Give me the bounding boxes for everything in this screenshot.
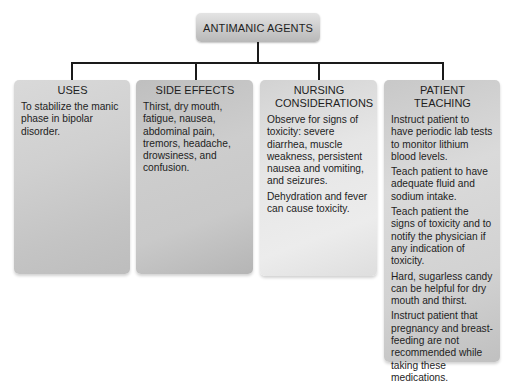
box-patient-teaching: PATIENT TEACHING Instruct patient to hav… [384, 80, 500, 362]
box-text: Observe for signs of toxicity: severe di… [267, 114, 371, 188]
box-heading: PATIENT TEACHING [391, 84, 494, 110]
connector-patient-teaching [442, 62, 444, 80]
root-node-label: ANTIMANIC AGENTS [203, 22, 313, 34]
connector-nursing-considerations [318, 62, 320, 80]
box-text: To stabilize the manic phase in bipolar … [21, 101, 124, 138]
root-node-antimanic-agents: ANTIMANIC AGENTS [196, 13, 320, 42]
box-text: Teach patient to have adequate fluid and… [391, 166, 494, 203]
connector-horizontal-bar [71, 62, 444, 64]
box-nursing-considerations: NURSING CONSIDERATIONS Observe for signs… [260, 80, 377, 276]
connector-uses [71, 62, 73, 80]
box-text: Instruct patient that pregnancy and brea… [391, 310, 494, 384]
box-heading: USES [21, 84, 124, 97]
box-text: Thirst, dry mouth, fatigue, nausea, abdo… [143, 101, 247, 175]
box-side-effects: SIDE EFFECTS Thirst, dry mouth, fatigue,… [136, 80, 253, 274]
box-heading: SIDE EFFECTS [143, 84, 247, 97]
box-uses: USES To stabilize the manic phase in bip… [14, 80, 130, 274]
box-text: Dehydration and fever can cause toxicity… [267, 191, 371, 216]
box-text: Hard, sugarless candy can be helpful for… [391, 271, 494, 308]
box-text: Instruct patient to have periodic lab te… [391, 114, 494, 163]
connector-side-effects [195, 62, 197, 80]
box-heading: NURSING CONSIDERATIONS [267, 84, 371, 110]
connector-root-stem [257, 42, 259, 63]
box-text: Teach patient the signs of toxicity and … [391, 206, 494, 267]
